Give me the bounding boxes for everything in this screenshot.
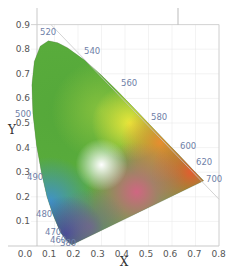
wavelength-label-500: 500: [15, 109, 31, 119]
wavelength-label-580: 580: [151, 112, 167, 122]
x-tick-label: 0.3: [90, 249, 104, 259]
y-tick-label: 0.6: [16, 93, 31, 103]
y-tick-label: 0.9: [16, 20, 31, 30]
x-tick-label: 0.1: [42, 249, 56, 259]
chromaticity-chart: 0.00.10.20.30.40.50.60.70.8 0.10.20.30.4…: [0, 0, 233, 273]
y-tick-label: 0.4: [16, 143, 31, 153]
x-tick-label: 0.7: [187, 249, 201, 259]
x-tick-label: 0.8: [211, 249, 226, 259]
wavelength-label-520: 520: [40, 27, 56, 37]
spectral-locus-fill: [0, 0, 233, 273]
wavelength-label-490: 490: [27, 172, 43, 182]
x-tick-label: 0.0: [18, 249, 33, 259]
wavelength-label-480: 480: [36, 209, 52, 219]
wavelength-label-700: 700: [206, 174, 222, 184]
y-tick-label: 0.7: [16, 69, 30, 79]
wavelength-label-470: 470: [45, 227, 61, 237]
wavelength-label-560: 560: [121, 78, 137, 88]
x-axis-label: X: [120, 255, 129, 269]
y-tick-label: 0.1: [16, 216, 30, 226]
y-tick-label: 0.5: [16, 118, 30, 128]
wavelength-label-600: 600: [180, 141, 196, 151]
x-tick-label: 0.5: [139, 249, 153, 259]
y-tick-label: 0.8: [16, 44, 31, 54]
x-tick-label: 0.2: [66, 249, 80, 259]
y-axis-ticks: 0.10.20.30.40.50.60.70.80.9: [16, 20, 31, 227]
y-axis-label: Y: [7, 123, 17, 137]
y-tick-label: 0.2: [16, 192, 30, 202]
wavelength-label-620: 620: [196, 157, 212, 167]
wavelength-label-540: 540: [84, 46, 100, 56]
x-tick-label: 0.6: [163, 249, 178, 259]
